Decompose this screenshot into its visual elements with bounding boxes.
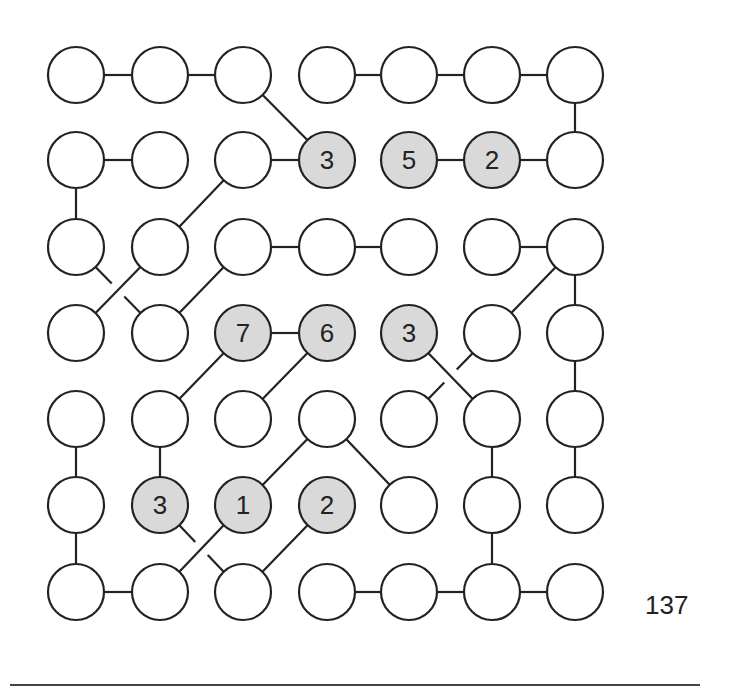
empty-node[interactable] [215,391,271,447]
numbered-node[interactable]: 3 [381,305,437,361]
empty-node[interactable] [464,564,520,620]
node-circle[interactable] [215,219,271,275]
empty-node[interactable] [547,305,603,361]
empty-node[interactable] [547,219,603,275]
empty-node[interactable] [299,391,355,447]
empty-node[interactable] [132,564,188,620]
empty-node[interactable] [48,477,104,533]
empty-node[interactable] [381,391,437,447]
node-circle[interactable] [48,47,104,103]
empty-node[interactable] [464,391,520,447]
node-circle[interactable] [48,132,104,188]
node-circle[interactable] [547,477,603,533]
node-circle[interactable] [215,391,271,447]
node-circle[interactable] [132,47,188,103]
node-circle[interactable] [464,47,520,103]
empty-node[interactable] [215,219,271,275]
numbered-node[interactable]: 6 [299,305,355,361]
node-circle[interactable] [381,47,437,103]
node-circle[interactable] [299,47,355,103]
empty-node[interactable] [381,477,437,533]
numbered-node[interactable]: 1 [215,477,271,533]
node-circle[interactable] [464,564,520,620]
link-line [96,267,112,284]
empty-node[interactable] [464,477,520,533]
node-value: 6 [320,318,334,348]
node-circle[interactable] [132,132,188,188]
node-circle[interactable] [547,305,603,361]
node-circle[interactable] [48,477,104,533]
node-circle[interactable] [132,564,188,620]
node-circle[interactable] [132,305,188,361]
numbered-node[interactable]: 5 [381,132,437,188]
node-circle[interactable] [299,219,355,275]
empty-node[interactable] [381,219,437,275]
node-circle[interactable] [381,477,437,533]
empty-node[interactable] [132,391,188,447]
node-circle[interactable] [547,132,603,188]
empty-node[interactable] [547,391,603,447]
numbered-node[interactable]: 7 [215,305,271,361]
node-circle[interactable] [48,391,104,447]
empty-node[interactable] [215,564,271,620]
numbered-node[interactable]: 2 [464,132,520,188]
node-circle[interactable] [464,305,520,361]
link-line [179,525,195,542]
node-circle[interactable] [464,391,520,447]
node-circle[interactable] [48,219,104,275]
node-value: 3 [320,145,334,175]
empty-node[interactable] [215,132,271,188]
node-circle[interactable] [132,391,188,447]
empty-node[interactable] [299,564,355,620]
empty-node[interactable] [48,132,104,188]
node-circle[interactable] [132,219,188,275]
node-circle[interactable] [48,305,104,361]
empty-node[interactable] [48,219,104,275]
node-circle[interactable] [547,391,603,447]
empty-node[interactable] [48,305,104,361]
node-circle[interactable] [299,391,355,447]
empty-node[interactable] [48,564,104,620]
page-number: 137 [645,590,688,621]
numbered-node[interactable]: 2 [299,477,355,533]
node-circle[interactable] [215,47,271,103]
empty-node[interactable] [547,477,603,533]
numbered-node[interactable]: 3 [299,132,355,188]
empty-node[interactable] [547,564,603,620]
empty-node[interactable] [299,47,355,103]
empty-node[interactable] [547,47,603,103]
node-circle[interactable] [464,477,520,533]
node-circle[interactable] [299,564,355,620]
node-circle[interactable] [215,132,271,188]
node-circle[interactable] [381,391,437,447]
empty-node[interactable] [464,47,520,103]
node-circle[interactable] [547,564,603,620]
empty-node[interactable] [132,219,188,275]
empty-node[interactable] [547,132,603,188]
empty-node[interactable] [381,47,437,103]
node-circle[interactable] [547,47,603,103]
node-circle[interactable] [48,564,104,620]
node-circle[interactable] [381,564,437,620]
numbered-node[interactable]: 3 [132,477,188,533]
empty-node[interactable] [464,305,520,361]
empty-node[interactable] [464,219,520,275]
empty-node[interactable] [132,47,188,103]
link-line [263,439,308,485]
node-circle[interactable] [464,219,520,275]
empty-node[interactable] [132,305,188,361]
empty-node[interactable] [299,219,355,275]
link-line [179,267,223,313]
empty-node[interactable] [48,391,104,447]
footer-divider [10,684,700,686]
link-line [263,95,308,140]
empty-node[interactable] [381,564,437,620]
link-line [179,180,223,226]
empty-node[interactable] [132,132,188,188]
puzzle-nodes: 352763312 [48,47,603,620]
node-circle[interactable] [381,219,437,275]
node-circle[interactable] [547,219,603,275]
node-circle[interactable] [215,564,271,620]
empty-node[interactable] [48,47,104,103]
empty-node[interactable] [215,47,271,103]
